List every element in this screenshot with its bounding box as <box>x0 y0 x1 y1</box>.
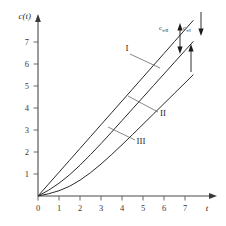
x-tick-label-3: 3 <box>99 203 103 213</box>
curve-III <box>38 75 193 196</box>
chart-figure: 0 1 2 3 4 5 6 7 1 2 3 4 5 6 7 c(t) t <box>0 0 226 226</box>
asymptote-label-I-sub: ∞I <box>186 28 191 33</box>
x-axis-title: t <box>206 203 209 213</box>
x-axis-arrowhead <box>209 193 217 199</box>
y-axis-title: c(t) <box>19 11 32 21</box>
x-tick-label-0: 0 <box>36 203 40 213</box>
leader-line-I <box>130 54 160 68</box>
y-tick-label-7: 7 <box>25 37 29 47</box>
y-tick-label-1: 1 <box>25 169 29 179</box>
x-tick-labels: 0 1 2 3 4 5 6 7 <box>36 203 187 213</box>
y-tick-labels: 1 2 3 4 5 6 7 <box>25 37 30 179</box>
curve-I <box>38 20 193 196</box>
curve-label-III: III <box>137 136 146 146</box>
x-tick-label-2: 2 <box>78 203 82 213</box>
offset-arrow-down-II <box>177 47 182 55</box>
x-tick-label-5: 5 <box>141 203 145 213</box>
curve-II <box>38 41 193 196</box>
curve-label-I: I <box>126 43 129 53</box>
y-axis-arrowhead <box>35 14 41 22</box>
x-tick-label-7: 7 <box>183 203 187 213</box>
y-tick-label-4: 4 <box>25 103 30 113</box>
y-tick-label-3: 3 <box>25 125 29 135</box>
leader-line-III <box>108 127 135 140</box>
y-tick-label-2: 2 <box>25 147 29 157</box>
asymptote-label-II: c∞II <box>159 24 169 33</box>
offset-arrow-up-II <box>177 23 182 31</box>
asymptote-label-I: c∞I <box>183 24 191 33</box>
x-tick-label-4: 4 <box>120 203 125 213</box>
offset-arrow-up-I <box>188 44 193 52</box>
offset-arrow-down-I <box>198 29 203 37</box>
y-tick-label-5: 5 <box>25 81 29 91</box>
asymptote-marker-II <box>177 23 182 54</box>
curve-label-II: II <box>160 108 166 118</box>
x-tick-label-1: 1 <box>57 203 61 213</box>
asymptote-label-II-sub: ∞II <box>162 28 169 33</box>
axis-group <box>35 14 217 199</box>
asymptote-marker-I <box>188 12 203 72</box>
line-chart-canvas: 0 1 2 3 4 5 6 7 1 2 3 4 5 6 7 c(t) t <box>0 0 226 226</box>
y-tick-group <box>34 42 39 174</box>
x-tick-label-6: 6 <box>162 203 166 213</box>
x-tick-group <box>38 196 185 201</box>
y-tick-label-6: 6 <box>25 59 29 69</box>
